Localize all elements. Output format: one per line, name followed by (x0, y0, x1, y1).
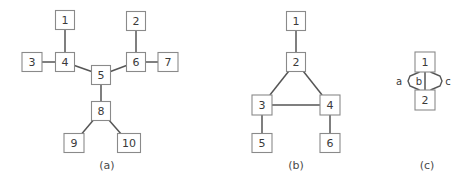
panel-caption-a: (a) (99, 159, 114, 172)
panel-caption-b: (b) (288, 159, 304, 172)
node-b-1[interactable]: 1 (287, 12, 306, 31)
node-label: 5 (98, 69, 105, 82)
edge-c-1-2-c (431, 72, 443, 90)
node-label: 1 (422, 56, 429, 69)
edge-label-c-a: a (396, 76, 402, 87)
node-label: 3 (259, 99, 266, 112)
edge-layer-c: abc (396, 72, 451, 90)
node-a-5[interactable]: 5 (92, 66, 111, 85)
node-b-6[interactable]: 6 (320, 134, 340, 153)
node-label: 2 (133, 15, 140, 28)
panel-b: 123456(b) (252, 12, 340, 173)
edge-layer-b (262, 31, 330, 134)
node-label: 4 (62, 56, 69, 69)
node-label: 3 (29, 56, 36, 69)
node-b-2[interactable]: 2 (287, 53, 306, 72)
node-c-1[interactable]: 1 (415, 52, 435, 72)
node-label: 8 (98, 105, 105, 118)
edge-a-8-10 (109, 121, 120, 134)
node-a-7[interactable]: 7 (158, 53, 178, 72)
node-a-4[interactable]: 4 (56, 53, 75, 72)
node-a-8[interactable]: 8 (92, 102, 111, 121)
edge-label-c-b: b (416, 76, 422, 87)
node-label: 1 (293, 15, 300, 28)
node-label: 10 (122, 137, 136, 150)
edge-b-2-4 (304, 72, 323, 96)
edge-a-8-9 (82, 121, 93, 134)
node-b-5[interactable]: 5 (252, 134, 272, 153)
node-label: 4 (327, 99, 334, 112)
node-a-1[interactable]: 1 (56, 11, 75, 30)
node-a-10[interactable]: 10 (118, 134, 141, 153)
node-c-2[interactable]: 2 (415, 90, 435, 110)
graph-figure: 13452678910(a)123456(b)abc12(c) (0, 0, 472, 187)
edge-a-4-5 (75, 65, 92, 71)
edge-label-c-c: c (445, 76, 451, 87)
figure-container: 13452678910(a)123456(b)abc12(c) (0, 0, 472, 187)
node-label: 5 (259, 137, 266, 150)
node-a-6[interactable]: 6 (127, 53, 146, 72)
edge-b-2-3 (270, 72, 289, 96)
edge-a-5-6 (111, 66, 127, 72)
node-label: 6 (327, 137, 334, 150)
node-b-3[interactable]: 3 (252, 95, 272, 115)
node-label: 2 (293, 56, 300, 69)
node-label: 7 (165, 56, 172, 69)
node-a-3[interactable]: 3 (22, 53, 42, 72)
node-a-2[interactable]: 2 (127, 12, 146, 31)
node-b-4[interactable]: 4 (320, 95, 340, 115)
panel-a: 13452678910(a) (22, 11, 178, 173)
node-label: 2 (422, 94, 429, 107)
node-label: 6 (133, 56, 140, 69)
node-a-9[interactable]: 9 (64, 134, 84, 153)
node-label: 9 (71, 137, 78, 150)
panel-caption-c: (c) (420, 159, 435, 172)
panel-c: abc12(c) (396, 52, 451, 172)
node-label: 1 (62, 14, 69, 27)
